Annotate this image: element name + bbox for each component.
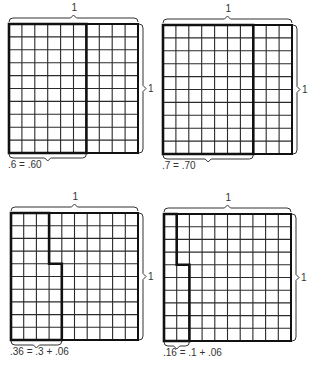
top-width-label: 1: [72, 2, 78, 13]
side-height-label: 1: [302, 84, 308, 95]
hundred-grid: [11, 213, 138, 340]
hundred-grid: [164, 214, 291, 341]
side-height-label: 1: [148, 271, 154, 282]
side-height-label: 1: [301, 272, 307, 283]
figure-point-three-six: 1 1 .36 = .3 + .06: [11, 213, 138, 340]
top-width-label: 1: [226, 3, 232, 14]
hundred-grid: [163, 25, 292, 154]
top-width-label: 1: [226, 192, 232, 203]
figure-point-one-six: 1 1 .16 = .1 + .06: [164, 214, 291, 341]
figure-point-seven: 1 1 .7 = .70: [163, 25, 292, 154]
side-height-label: 1: [148, 83, 154, 94]
caption-equation: .36 = .3 + .06: [10, 346, 69, 357]
caption-equation: .6 = .60: [8, 159, 42, 170]
caption-equation: .7 = .70: [162, 160, 196, 171]
top-width-label: 1: [73, 191, 79, 202]
hundred-grid: [9, 24, 138, 153]
figure-point-six: 1 1 .6 = .60: [9, 24, 138, 153]
caption-equation: .16 = .1 + .06: [163, 347, 222, 358]
